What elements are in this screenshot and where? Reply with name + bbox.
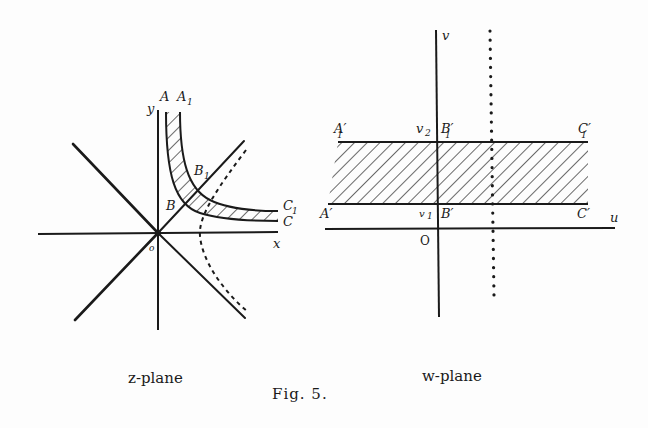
figure-caption: Fig. 5. [272,385,328,403]
z-label-A1-sub: 1 [187,97,193,107]
w-label-B-prime: B′ [440,206,454,221]
w-v-axis-label: v [442,28,450,43]
w-label-C-prime: C′ [577,206,590,221]
w-u-axis [325,228,615,229]
z-diagonal-lower-left [75,233,158,320]
figure-5: y x o A A 1 B B 1 C 1 C v u O A′ 1 v 2 B… [0,0,648,428]
z-diagonal-lower-right [158,233,245,318]
z-label-C: C [283,214,293,229]
z-label-A1: A [176,89,186,104]
w-label-v2: v [416,121,424,136]
z-plane-diagram: y x o A A 1 B B 1 C 1 C [38,89,298,330]
z-label-B: B [165,198,176,213]
w-origin-label: O [420,234,430,248]
w-label-B1-prime-sub: 1 [445,130,451,140]
z-diagonal-upper-left [73,144,158,233]
w-plane-title: w-plane [422,367,482,385]
z-x-axis-label: x [273,236,281,251]
z-label-A: A [159,89,169,104]
z-origin-point [155,230,161,236]
w-label-A-prime: A′ [319,206,332,221]
w-label-C1-prime-sub: 1 [581,130,587,140]
z-origin-label: o [149,243,155,253]
z-y-axis-label: y [146,101,155,116]
z-plane-title: z-plane [128,369,183,387]
w-label-v2-sub: 2 [424,128,431,138]
w-u-axis-label: u [610,210,618,225]
w-hatched-strip [328,142,588,204]
w-plane-diagram: v u O A′ 1 v 2 B′ 1 C′ 1 A′ v 1 B′ C′ [319,28,618,317]
w-label-v1: v [419,208,425,219]
w-label-A1-prime-sub: 1 [337,130,343,140]
z-label-B1: B [193,163,204,178]
z-label-B1-sub: 1 [204,171,210,181]
w-label-v1-sub: 1 [427,211,433,221]
